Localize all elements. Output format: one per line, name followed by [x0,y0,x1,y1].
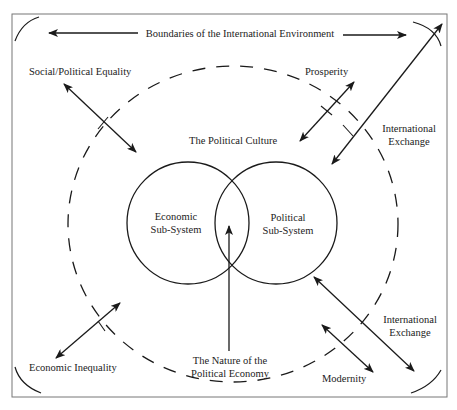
political-culture-boundary [68,66,398,382]
label-prosperity: Prosperity [305,66,349,77]
label-political-subsystem-2: Sub-System [263,225,314,236]
political-economy-diagram: Boundaries of the International Environm… [0,0,457,410]
arrow-social-political-equality [64,84,136,152]
label-political-subsystem-1: Political [271,212,306,223]
political-subsystem-circle [215,162,337,284]
tick-international-exchange-top [343,125,353,136]
label-boundaries: Boundaries of the International Environm… [146,28,334,39]
label-international-exchange-top-1: International [382,123,436,134]
label-nature-political-economy-1: The Nature of the [193,355,268,366]
arrow-modernity [322,325,373,372]
label-political-culture: The Political Culture [189,135,277,146]
label-economic-subsystem-1: Economic [155,211,198,222]
label-economic-subsystem-2: Sub-System [151,224,202,235]
label-international-exchange-top-2: Exchange [388,136,430,147]
tick-economic-inequality [98,321,105,331]
label-social-political-equality: Social/Political Equality [29,66,132,77]
label-international-exchange-bottom-2: Exchange [389,327,431,338]
label-economic-inequality: Economic Inequality [29,362,118,373]
corner-arc-top-left [15,17,39,41]
corner-arc-bottom-right [411,370,441,393]
economic-subsystem-circle [127,162,249,284]
label-modernity: Modernity [322,373,367,384]
label-nature-political-economy-2: Political Economy [191,368,270,379]
label-international-exchange-bottom-1: International [383,314,437,325]
